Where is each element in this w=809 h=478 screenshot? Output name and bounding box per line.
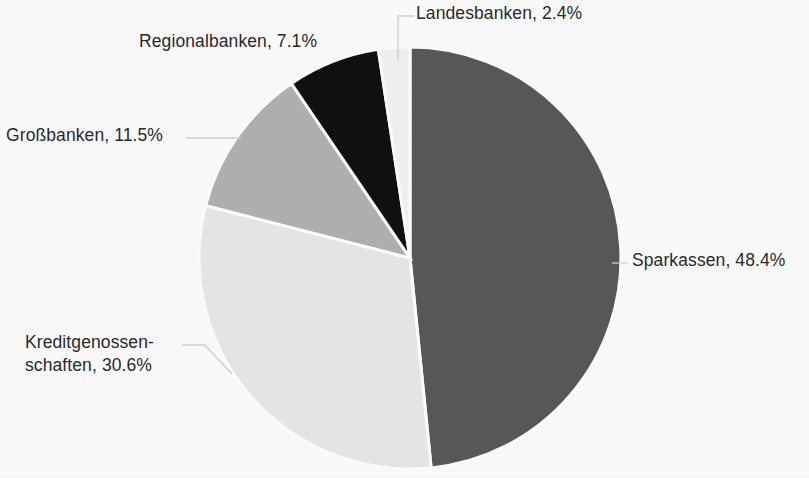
pie-chart-figure: Landesbanken, 2.4% Regionalbanken, 7.1% … [0,0,809,478]
pie-slices [199,47,621,469]
pie-label-kreditgenossenschaften-line2: schaften, 30.6% [25,355,152,375]
pie-chart-canvas [0,0,809,478]
pie-label-kreditgenossenschaften: Kreditgenossen-schaften, 30.6% [25,331,154,377]
pie-slice-sparkassen[interactable] [410,47,621,468]
pie-label-landesbanken: Landesbanken, 2.4% [416,2,582,25]
pie-label-kreditgenossenschaften-line1: Kreditgenossen- [25,332,154,352]
pie-label-regionalbanken: Regionalbanken, 7.1% [139,30,317,53]
pie-label-grossbanken: Großbanken, 11.5% [6,124,163,147]
pie-label-sparkassen: Sparkassen, 48.4% [632,249,785,272]
